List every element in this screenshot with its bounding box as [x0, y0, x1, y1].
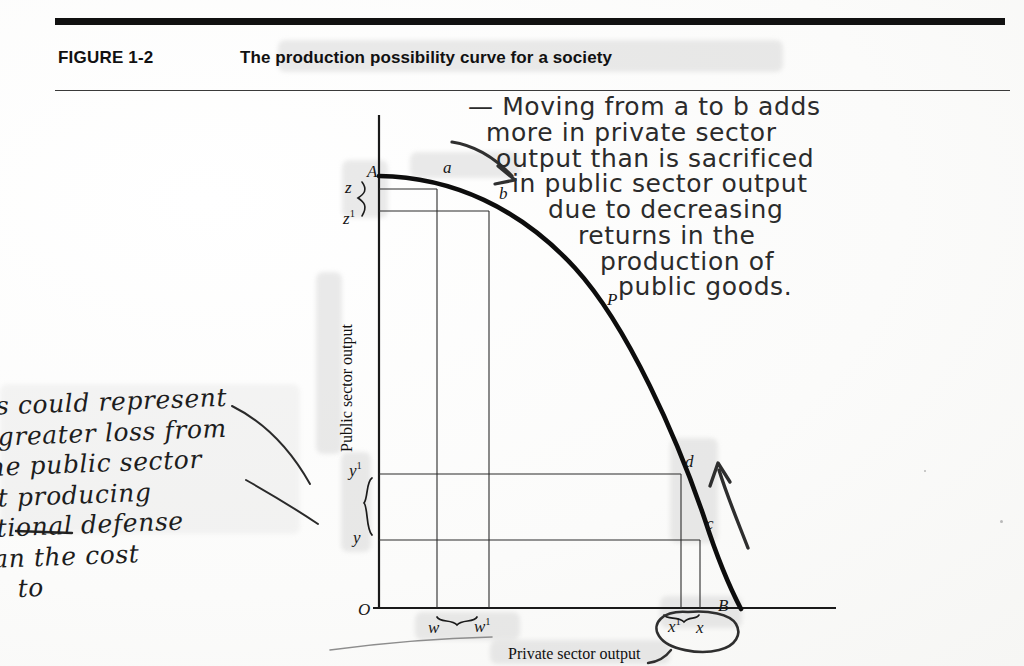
point-label-A: A — [367, 162, 377, 182]
point-label-B: B — [718, 596, 728, 616]
point-label-c: c — [706, 514, 714, 534]
tick-label-x1: x1 — [668, 616, 681, 637]
tick-label-y: y — [353, 528, 361, 548]
scan-speck — [1000, 520, 1003, 523]
circle-tail — [648, 650, 671, 663]
note-top-line: output than is sacrificed — [468, 146, 1016, 172]
brace-w-w1 — [437, 617, 477, 625]
tick-label-w: w — [428, 618, 439, 638]
tick-label-z1: z1 — [343, 208, 355, 229]
scan-speck — [924, 470, 926, 472]
point-label-a: a — [443, 158, 452, 178]
note-top-line: public goods. — [468, 274, 1016, 300]
handwritten-note-top: — Moving from a to b adds more in privat… — [468, 94, 1016, 300]
note-top-line: in public sector output — [468, 171, 1016, 197]
handwritten-note-left: his could represent greater loss from he… — [0, 380, 318, 606]
arrow-to-d-shaft — [719, 470, 748, 548]
tick-label-w1: w1 — [474, 616, 491, 637]
note-top-line: more in private sector — [468, 120, 1016, 146]
brace-z-z1 — [358, 182, 365, 216]
tick-label-x: x — [696, 618, 704, 638]
origin-label: O — [358, 600, 370, 620]
x-axis-title: Private sector output — [508, 645, 640, 663]
scanned-page: FIGURE 1-2 The production possibility cu… — [0, 0, 1024, 666]
y-axis-title: Public sector output — [338, 324, 356, 452]
bottom-leader-line — [330, 637, 492, 650]
tick-label-y1: y1 — [349, 460, 362, 481]
note-top-line: — Moving from a to b adds — [468, 94, 1016, 120]
brace-y1-y — [364, 478, 372, 535]
note-top-line: returns in the — [468, 223, 1016, 249]
note-top-line: production of — [468, 249, 1016, 275]
note-top-line: due to decreasing — [468, 197, 1016, 223]
tick-label-z: z — [345, 178, 352, 198]
point-label-d: d — [685, 452, 694, 472]
